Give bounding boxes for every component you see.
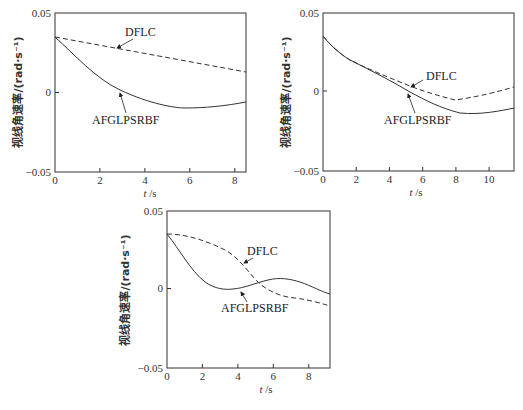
label-afglpsrbf: AFGLPSRBF [384,113,452,127]
xtick: 6 [271,370,277,382]
ytick-top: 0.05 [300,7,320,19]
series-afglpsrbf [167,234,330,294]
xtick: 2 [200,370,206,382]
xtick: 6 [420,173,426,185]
ytick-top: 0.05 [32,7,52,19]
chart-3: 0.05 0 −0.05 0 2 4 6 8 t /s 视线角速率/(rad·s… [118,205,330,395]
xtick: 2 [97,174,103,186]
plot-frame [167,211,330,368]
xtick: 10 [484,173,496,185]
ytick-mid: 0 [314,85,320,97]
xtick: 8 [306,370,312,382]
ytick-mid: 0 [158,282,164,294]
ytick-bottom: −0.05 [26,166,52,178]
xtick: 0 [164,370,170,382]
label-dflc: DFLC [125,25,156,39]
label-afglpsrbf: AFGLPSRBF [221,301,289,315]
ytick-mid: 0 [46,86,52,98]
xtick: 0 [52,174,58,186]
ytick-bottom: −0.05 [294,165,320,177]
series-dflc [55,37,246,72]
series-dflc [323,36,514,100]
chart-2: 0.05 0 −0.05 0 2 4 6 8 10 t /s 视线角速率/(ra… [279,7,514,198]
series-afglpsrbf [55,37,246,108]
xtick: 6 [187,174,193,186]
xtick: 2 [353,173,359,185]
y-axis-title: 视线角速率/(rad·s⁻¹) [118,234,132,345]
x-axis-title: t /s [259,383,272,395]
chart-1: 0.05 0 −0.05 0 2 4 6 8 t /s 视线角速率/(rad·s… [11,7,246,199]
xtick: 4 [235,370,241,382]
series-afglpsrbf [323,36,514,114]
label-dflc: DFLC [426,69,457,83]
y-axis-title: 视线角速率/(rad·s⁻¹) [11,36,25,147]
xtick: 8 [232,174,238,186]
xtick: 4 [142,174,148,186]
xtick: 8 [453,173,459,185]
x-axis-title: t /s [409,186,422,198]
figure-canvas: 0.05 0 −0.05 0 2 4 6 8 t /s 视线角速率/(rad·s… [0,0,523,410]
plot-frame [323,13,514,171]
ytick-top: 0.05 [144,205,164,217]
label-dflc: DFLC [247,244,278,258]
ytick-bottom: −0.05 [138,362,164,374]
label-afglpsrbf: AFGLPSRBF [92,113,160,127]
x-axis-title: t /s [143,187,156,199]
y-axis-title: 视线角速率/(rad·s⁻¹) [279,36,293,147]
xtick: 0 [320,173,326,185]
xtick: 4 [387,173,393,185]
